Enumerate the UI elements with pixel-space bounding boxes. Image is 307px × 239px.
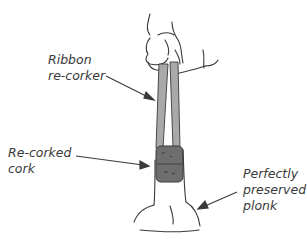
- ribbon-label-line1: Ribbon: [48, 52, 105, 68]
- plonk-label-line2: preserved: [243, 182, 306, 198]
- plonk-label-line3: plonk: [243, 198, 306, 214]
- plonk-label: Perfectly preserved plonk: [243, 166, 306, 214]
- cork-icon: [156, 146, 183, 182]
- ribbon-label: Ribbon re-corker: [48, 52, 105, 84]
- ribbon-icon: [156, 62, 180, 148]
- cork-label-line2: cork: [8, 161, 71, 177]
- cork-label-line1: Re-corked: [8, 145, 71, 161]
- plonk-label-line1: Perfectly: [243, 166, 306, 182]
- illustration: Ribbon re-corker Re-corked cork Perfectl…: [0, 0, 307, 239]
- hand-icon: [146, 14, 218, 75]
- ribbon-label-line2: re-corker: [48, 68, 105, 84]
- cork-label: Re-corked cork: [8, 145, 71, 177]
